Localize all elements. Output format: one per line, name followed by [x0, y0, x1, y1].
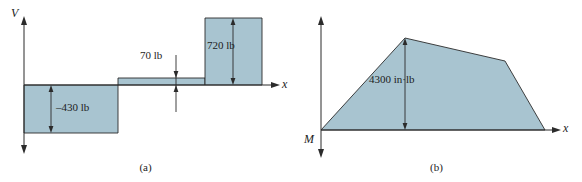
m-axis-arrow-up	[318, 16, 324, 25]
v-axis-arrow-up	[21, 16, 27, 25]
x-axis-label-a: x	[282, 78, 287, 90]
v-axis-label: V	[11, 7, 18, 19]
x-axis-arrow-b	[552, 127, 561, 133]
shear-label-positive-720: 720 lb	[207, 40, 235, 51]
caption-a: (a)	[0, 162, 291, 173]
moment-diagram-graphic	[291, 0, 582, 182]
v-axis-arrow-down	[21, 145, 27, 154]
shear-diagram-panel: V x –430 lb 70 lb 720 lb (a)	[0, 0, 291, 182]
shear-segment-positive-720	[205, 18, 262, 85]
m-axis-arrow-down	[318, 149, 324, 158]
dim-arrow-70-top	[174, 71, 179, 78]
m-axis-label: M	[304, 133, 314, 145]
shear-label-negative-430: –430 lb	[56, 102, 89, 113]
shear-segment-positive-70	[118, 78, 205, 85]
x-axis-label-b: x	[563, 122, 568, 134]
shear-label-positive-70: 70 lb	[140, 50, 162, 61]
shear-diagram-graphic	[0, 0, 291, 182]
moment-area-shape	[321, 38, 545, 130]
x-axis-arrow-a	[271, 82, 280, 88]
moment-diagram-panel: M x 4300 in·lb (b)	[291, 0, 582, 182]
shear-moment-figure: V x –430 lb 70 lb 720 lb (a) M x 4300 in…	[0, 0, 582, 182]
dim-arrow-70-bottom	[174, 85, 179, 92]
moment-label-peak: 4300 in·lb	[369, 74, 415, 85]
caption-b: (b)	[291, 162, 582, 173]
